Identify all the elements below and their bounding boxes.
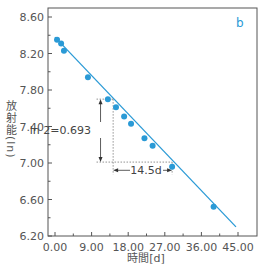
y-tick-label: 6.20	[20, 230, 45, 243]
arrowhead-left	[113, 168, 118, 172]
ln2-annotation: ln 2=0.693	[30, 124, 91, 137]
arrowhead-up	[99, 99, 103, 104]
half-life-annotation: 14.5d	[130, 164, 161, 177]
data-point	[121, 113, 127, 119]
x-tick-label: 9.00	[79, 241, 104, 254]
x-tick-label: 0.00	[43, 241, 68, 254]
data-point	[169, 164, 175, 170]
data-point	[211, 204, 217, 210]
y-tick-label: 8.60	[20, 11, 45, 24]
data-point	[61, 48, 67, 54]
x-axis-title: 時間[d]	[127, 252, 165, 265]
data-point	[85, 74, 91, 80]
arrowhead-down	[99, 157, 103, 162]
y-axis-title: 放射能(ln)	[4, 99, 18, 159]
plot-frame	[48, 8, 257, 236]
y-tick-label: 7.00	[20, 157, 45, 170]
data-point	[141, 135, 147, 141]
y-tick-label: 8.20	[20, 48, 45, 61]
y-tick-label: 6.60	[20, 194, 45, 207]
panel-label: b	[236, 16, 244, 30]
x-tick-label: 45.00	[222, 241, 254, 254]
data-point	[58, 40, 64, 46]
data-point	[150, 143, 156, 149]
data-point	[113, 104, 119, 110]
data-point	[105, 96, 111, 102]
half-life-chart: 0.009.0018.0027.0036.0045.006.206.607.00…	[0, 0, 261, 267]
x-tick-label: 36.00	[186, 241, 218, 254]
y-tick-label: 7.80	[20, 84, 45, 97]
data-point	[128, 121, 134, 127]
